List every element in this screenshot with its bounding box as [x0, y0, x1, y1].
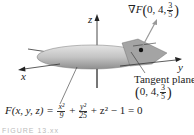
gradient-symbol: ∇F: [128, 3, 142, 15]
y-axis-label: y: [178, 62, 183, 73]
tangent-point-label: (0, 4,35): [135, 84, 172, 101]
figure-caption: FIGURE 13.xx: [2, 127, 59, 134]
gradient-point: 0, 4,: [147, 3, 166, 15]
x-axis-label: x: [21, 71, 26, 82]
ellipsoid-equation: F(x, y, z) = x²9 + y²25 + z² − 1 = 0: [5, 103, 142, 120]
gradient-label: ∇F(0, 4,35): [128, 2, 179, 19]
z-axis-label: z: [88, 14, 92, 25]
gradient-arrowhead: [152, 19, 157, 25]
equation-leader: [60, 67, 77, 104]
tangent-point: [139, 48, 143, 52]
